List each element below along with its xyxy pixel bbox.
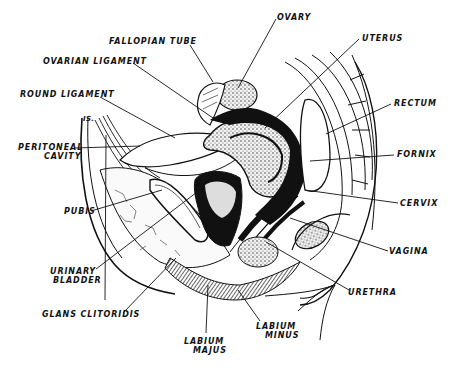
label-ovarian-ligament: OVARIAN LIGAMENT: [43, 57, 147, 66]
label-urethra: URETHRA: [348, 288, 397, 297]
rectum-shape: [300, 99, 330, 191]
label-pubis: PUBIS: [64, 207, 96, 216]
anatomy-figure: OVARY FALLOPIAN TUBE UTERUS OVARIAN LIGA…: [0, 0, 450, 371]
label-vagina: VAGINA: [389, 247, 429, 256]
label-glans-clitoridis: GLANS CLITORIDIS: [42, 310, 140, 319]
label-labium-minus: LABIUM MINUS: [256, 322, 299, 340]
label-uterus: UTERUS: [362, 34, 403, 43]
anal-sphincter: [290, 216, 333, 255]
label-cervix: CERVIX: [400, 199, 438, 208]
label-ovary: OVARY: [277, 13, 311, 22]
label-is-mark: IS.: [83, 115, 94, 124]
label-fallopian-tube: FALLOPIAN TUBE: [109, 37, 197, 46]
label-urinary-bladder: URINARY BLADDER: [50, 267, 102, 285]
label-peritoneal-cavity: PERITONEAL CAVITY: [18, 143, 83, 161]
label-rectum: RECTUM: [394, 99, 437, 108]
label-round-ligament: ROUND LIGAMENT: [20, 90, 115, 99]
label-fornix: FORNIX: [397, 150, 437, 159]
label-labium-majus: LABIUM MAJUS: [184, 337, 227, 355]
